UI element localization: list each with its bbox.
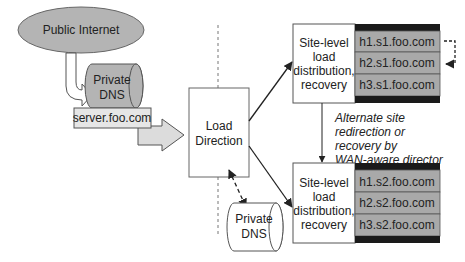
private-dns-top-line1: Private — [93, 73, 131, 87]
private-dns-bottom-line1: Private — [235, 212, 273, 226]
private-dns-bottom-line2: DNS — [241, 227, 266, 241]
site2-label-line3: distribution, — [293, 204, 354, 218]
site2-host2-label: h2.s2.foo.com — [359, 196, 434, 210]
site1-label-line1: Site-level — [299, 36, 348, 50]
network-diagram: Public Internet Private DNS server.foo.c… — [0, 0, 465, 262]
site2-box: Site-level load distribution, recovery h… — [293, 163, 440, 243]
failover-loop-arrow — [444, 41, 455, 64]
site1-box: Site-level load distribution, recovery h… — [293, 24, 440, 103]
to-site2-arrow — [249, 146, 292, 207]
private-dns-top-cylinder: Private DNS — [85, 64, 143, 108]
site1-host3-label: h3.s1.foo.com — [359, 78, 434, 92]
site2-label-line4: recovery — [301, 218, 347, 232]
svg-text:redirection or: redirection or — [335, 125, 406, 139]
load-direction-box: Load Direction — [189, 88, 249, 177]
private-dns-top-line2: DNS — [99, 88, 124, 102]
site2-label-line2: load — [313, 190, 336, 204]
load-direction-line2: Direction — [195, 134, 242, 148]
to-site1-arrow — [249, 62, 292, 121]
site1-label-line2: load — [313, 50, 336, 64]
server-box: server.foo.com — [73, 108, 152, 128]
server-label: server.foo.com — [73, 111, 152, 125]
annotation-text: Alternate site redirection or recovery b… — [334, 111, 444, 167]
site2-host3-label: h3.s2.foo.com — [359, 218, 434, 232]
site2-label-line1: Site-level — [299, 176, 348, 190]
svg-text:recovery by: recovery by — [335, 139, 398, 153]
site2-host1-label: h1.s2.foo.com — [359, 175, 434, 189]
site1-label-line4: recovery — [301, 78, 347, 92]
site1-label-line3: distribution, — [293, 64, 354, 78]
public-internet-cloud: Public Internet — [18, 7, 144, 53]
public-internet-label: Public Internet — [43, 23, 120, 37]
site1-host2-label: h2.s1.foo.com — [359, 56, 434, 70]
load-direction-line1: Load — [206, 119, 233, 133]
site1-host1-label: h1.s1.foo.com — [359, 35, 434, 49]
private-dns-bottom-cylinder: Private DNS — [227, 203, 283, 251]
svg-text:Alternate site: Alternate site — [334, 111, 405, 125]
